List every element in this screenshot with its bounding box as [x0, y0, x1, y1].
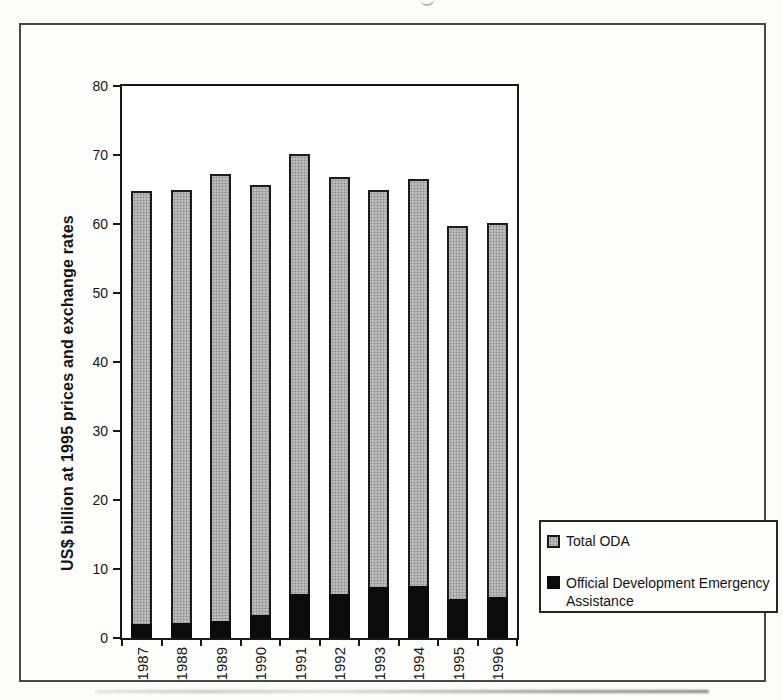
y-tick-label-40: 40 [70, 354, 108, 370]
bar-1996-emergency-assistance [487, 597, 508, 638]
y-tick-label-20: 20 [70, 492, 108, 508]
x-axis-label-1993: 1993 [370, 647, 387, 680]
bar-1988-total-oda [171, 190, 192, 639]
x-axis-label-1988: 1988 [173, 647, 190, 680]
x-axis-label-1991: 1991 [291, 647, 308, 680]
x-tick-7 [398, 640, 400, 646]
y-tick-60 [113, 223, 121, 225]
x-axis-label-1989: 1989 [212, 647, 229, 680]
y-tick-label-60: 60 [70, 216, 108, 232]
scan-artifact-top [420, 0, 436, 7]
y-tick-40 [113, 361, 121, 363]
x-tick-4 [279, 640, 281, 646]
legend-item-total-oda: Total ODA [547, 532, 630, 550]
y-tick-20 [113, 499, 121, 501]
bar-1991-emergency-assistance [289, 594, 310, 638]
bar-1993-emergency-assistance [368, 587, 389, 638]
bar-1990-emergency-assistance [250, 615, 271, 638]
x-axis-label-1996: 1996 [489, 647, 506, 680]
x-tick-1 [161, 640, 163, 646]
y-tick-80 [113, 85, 121, 87]
x-tick-3 [240, 640, 242, 646]
x-axis-label-1995: 1995 [449, 647, 466, 680]
x-axis-label-1987: 1987 [133, 647, 150, 680]
y-tick-label-10: 10 [70, 561, 108, 577]
x-axis-label-1992: 1992 [331, 647, 348, 680]
legend-label-emergency-assistance: Official Development Emergency Assistanc… [566, 574, 772, 610]
y-tick-50 [113, 292, 121, 294]
x-tick-10 [516, 640, 518, 646]
x-axis-label-1990: 1990 [252, 647, 269, 680]
x-tick-9 [477, 640, 479, 646]
bar-1991-total-oda [289, 154, 310, 638]
bar-1987-emergency-assistance [131, 624, 152, 638]
legend: Total ODA Official Development Emergency… [539, 520, 778, 613]
y-tick-label-30: 30 [70, 423, 108, 439]
y-tick-label-70: 70 [70, 147, 108, 163]
x-tick-2 [200, 640, 202, 646]
y-tick-0 [113, 637, 121, 639]
y-tick-70 [113, 154, 121, 156]
x-tick-6 [358, 640, 360, 646]
y-axis-title: US$ billion at 1995 prices and exchange … [59, 215, 77, 571]
legend-swatch-emergency-assistance [547, 576, 560, 589]
bar-1995-emergency-assistance [447, 599, 468, 638]
bar-1992-total-oda [329, 177, 350, 638]
bar-1994-emergency-assistance [408, 586, 429, 638]
scan-artifact-bottom [95, 690, 709, 693]
bar-1994-total-oda [408, 179, 429, 638]
bar-1989-emergency-assistance [210, 621, 231, 638]
bar-1990-total-oda [250, 185, 271, 638]
bar-1989-total-oda [210, 174, 231, 638]
bar-1993-total-oda [368, 190, 389, 638]
plot-area: 0102030405060708019871988198919901991199… [120, 84, 519, 640]
y-tick-label-80: 80 [70, 78, 108, 94]
legend-label-total-oda: Total ODA [566, 532, 630, 550]
x-tick-0 [121, 640, 123, 646]
y-tick-label-50: 50 [70, 285, 108, 301]
bar-1992-emergency-assistance [329, 594, 350, 638]
y-tick-label-0: 0 [70, 630, 108, 646]
bar-1988-emergency-assistance [171, 623, 192, 638]
x-tick-8 [437, 640, 439, 646]
bar-1995-total-oda [447, 226, 468, 638]
y-tick-10 [113, 568, 121, 570]
x-axis-label-1994: 1994 [410, 647, 427, 680]
figure-border: US$ billion at 1995 prices and exchange … [19, 23, 766, 682]
y-tick-30 [113, 430, 121, 432]
x-tick-5 [319, 640, 321, 646]
legend-item-emergency-assistance: Official Development Emergency Assistanc… [547, 574, 772, 610]
scanned-chart-page: US$ billion at 1995 prices and exchange … [0, 0, 783, 700]
bar-1987-total-oda [131, 191, 152, 638]
legend-swatch-total-oda [547, 535, 560, 548]
bar-1996-total-oda [487, 223, 508, 638]
